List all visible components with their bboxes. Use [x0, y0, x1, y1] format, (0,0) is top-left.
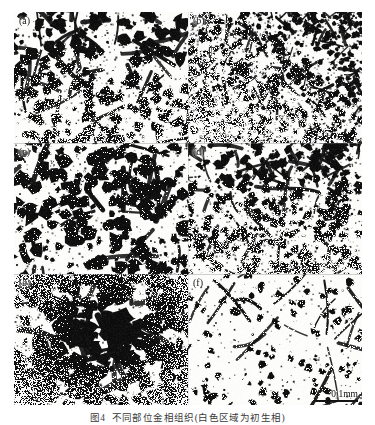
panel-d: (d) — [188, 143, 362, 274]
micrograph-canvas-b — [188, 12, 362, 143]
micrograph-canvas-d — [188, 143, 362, 274]
micrograph-canvas-a — [14, 12, 188, 143]
scale-bar: 0.1mm — [314, 389, 358, 402]
micrograph-canvas-f — [188, 274, 362, 405]
micrograph-montage: (a) (b) (c) (d) (e) (f) 0.1mm — [14, 12, 362, 405]
figure-root: (a) (b) (c) (d) (e) (f) 0.1mm — [0, 0, 375, 425]
micrograph-canvas-e — [14, 274, 188, 405]
scale-bar-label: 0.1mm — [314, 389, 358, 399]
panel-b: (b) — [188, 12, 362, 143]
panel-a: (a) — [14, 12, 188, 143]
micrograph-canvas-c — [14, 143, 188, 274]
scale-bar-line — [314, 400, 358, 402]
panel-f: (f) 0.1mm — [188, 274, 362, 405]
figure-caption-number: 图4 — [90, 413, 106, 423]
panel-c: (c) — [14, 143, 188, 274]
figure-caption: 图4不同部位金相组织(白色区域为初生相) — [0, 410, 375, 424]
figure-caption-text: 不同部位金相组织(白色区域为初生相) — [112, 413, 286, 423]
panel-e: (e) — [14, 274, 188, 405]
